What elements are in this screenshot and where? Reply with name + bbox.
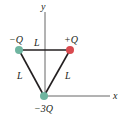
charge-label-positive-q: +Q xyxy=(64,34,79,45)
side-label-top: L xyxy=(33,37,40,48)
side-label-left: L xyxy=(16,70,23,81)
charge-negative-q xyxy=(15,46,23,54)
charge-label-negative-3q: −3Q xyxy=(34,103,54,114)
y-axis-label: y xyxy=(40,1,46,12)
charge-negative-3q xyxy=(40,92,48,100)
charge-label-negative-q: −Q xyxy=(9,34,24,45)
x-axis-label: x xyxy=(112,90,118,101)
side-left xyxy=(19,50,44,96)
charge-positive-q xyxy=(66,46,74,54)
charge-triangle-diagram: y x L L L −Q +Q −3Q xyxy=(0,0,123,118)
side-label-right: L xyxy=(64,70,71,81)
